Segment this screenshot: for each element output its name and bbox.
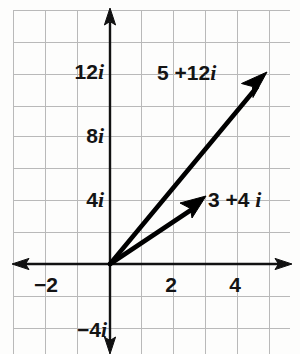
vector-label-5-operator: + — [175, 61, 187, 84]
y-tick-label-12i: 12i — [75, 61, 104, 83]
plot-canvas — [0, 0, 300, 354]
vector-5-plus-12i-arrowhead — [242, 72, 268, 98]
grid-lines — [13, 10, 290, 354]
vector-label-5-unit: i — [210, 60, 216, 85]
y-tick-minus4i-number: −4 — [77, 318, 101, 341]
vector-label-5-real: 5 — [157, 61, 169, 84]
vector-label-5-plus-12i: 5 +12i — [157, 62, 216, 84]
vector-label-5-imag: 12 — [187, 61, 210, 84]
vector-label-3-imag: 4 — [238, 188, 250, 211]
vector-label-3-unit: i — [255, 187, 261, 212]
vector-label-3-operator: + — [226, 188, 238, 211]
y-tick-12i-unit: i — [98, 59, 104, 84]
y-tick-label-4i: 4i — [86, 189, 104, 211]
x-tick-label-minus-2: −2 — [34, 274, 58, 295]
y-tick-8i-unit: i — [98, 123, 104, 148]
vector-label-3-real: 3 — [208, 188, 220, 211]
y-tick-minus4i-unit: i — [101, 317, 107, 342]
y-tick-4i-number: 4 — [86, 188, 98, 211]
complex-plane-figure: 12i 8i 4i −4i −2 2 4 5 +12i 3 +4 i — [0, 0, 300, 354]
y-tick-label-minus-4i: −4i — [77, 319, 107, 341]
vector-label-3-plus-4i: 3 +4 i — [208, 189, 261, 211]
y-tick-8i-number: 8 — [86, 124, 98, 147]
x-tick-label-4: 4 — [229, 274, 241, 295]
x-tick-label-2: 2 — [165, 274, 177, 295]
axes — [12, 8, 292, 354]
vector-5-plus-12i-shaft — [110, 87, 257, 264]
y-tick-4i-unit: i — [98, 187, 104, 212]
y-tick-12i-number: 12 — [75, 60, 98, 83]
y-tick-label-8i: 8i — [86, 125, 104, 147]
